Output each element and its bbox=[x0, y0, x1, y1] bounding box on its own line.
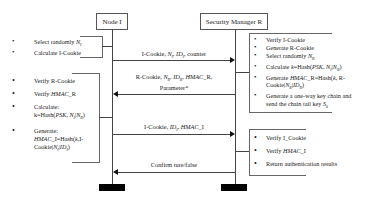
step-verify-i-cookie: • Verify I-Cookie bbox=[252, 36, 351, 44]
step-calculate-i-cookie: • Calculate I-Cookie bbox=[10, 49, 81, 57]
bullet-icon: • bbox=[12, 90, 15, 98]
bullet-icon: • bbox=[12, 127, 15, 135]
manager-r-step-connector-1 bbox=[236, 72, 249, 73]
manager-r-steps-1: • Verify I-Cookie • Generate R-Cookie • … bbox=[252, 36, 351, 111]
arrow-right-icon bbox=[230, 57, 235, 63]
bullet-icon: • bbox=[12, 103, 15, 111]
message-3-arrow-line bbox=[113, 134, 230, 135]
step-verify-hmac-i: • Verify HMAC_I bbox=[252, 147, 337, 155]
manager-r-step-connector-2 bbox=[236, 151, 249, 152]
bullet-icon: • bbox=[12, 38, 14, 46]
step-generate-hmac-i: • Generate: HMAC_I=Hash(k,I- Cookie|NI|I… bbox=[10, 127, 85, 154]
step-generate-key-chain: • Generate a one-way key chain and send … bbox=[252, 92, 351, 111]
step-calculate-k-node: • Calculate: k=Hash(PSK, NI|NR) bbox=[10, 103, 85, 122]
message-2-label: R-Cookie, NR, IDR, HMAC_R, Parameter* bbox=[113, 73, 235, 92]
bullet-icon: • bbox=[254, 92, 256, 100]
arrow-right-icon bbox=[230, 131, 235, 137]
node-i-step-connector-1 bbox=[102, 46, 112, 47]
bullet-icon: • bbox=[254, 63, 256, 71]
step-verify-r-cookie: • Verify R-Cookie bbox=[10, 77, 85, 85]
arrow-left-icon bbox=[113, 169, 118, 175]
bullet-icon: • bbox=[254, 160, 257, 168]
bullet-icon: • bbox=[254, 74, 256, 82]
node-i-step-bracket-1 bbox=[80, 36, 103, 58]
message-4-arrow-line bbox=[118, 172, 235, 173]
message-4-label: Confirm ture/false bbox=[113, 161, 235, 169]
step-calculate-k: • Calculate k=Hash(PSK, NI|NR) bbox=[252, 63, 351, 74]
step-verify-i-cookie-2: • Verify I_Cookie bbox=[252, 134, 337, 142]
message-1-arrow-line bbox=[113, 60, 230, 61]
participant-node-i-label: Node I bbox=[102, 18, 121, 26]
step-select-ni: • Select randomly NI bbox=[10, 38, 81, 49]
bullet-icon: • bbox=[254, 134, 257, 142]
node-i-steps-1: • Select randomly NI • Calculate I-Cooki… bbox=[10, 38, 81, 57]
lifeline-end-bar-node-i bbox=[99, 184, 125, 191]
participant-node-i: Node I bbox=[96, 13, 128, 30]
arrow-left-icon bbox=[113, 91, 118, 97]
lifeline-end-bar-security-manager-r bbox=[221, 184, 247, 191]
manager-r-steps-2: • Verify I_Cookie • Verify HMAC_I • Retu… bbox=[252, 134, 337, 173]
step-generate-r-cookie: • Generate R-Cookie bbox=[252, 44, 351, 52]
node-i-step-connector-2 bbox=[99, 117, 112, 118]
lifeline-security-manager-r bbox=[235, 29, 236, 184]
participant-security-manager-r-label: Security Manager R bbox=[206, 18, 262, 26]
step-generate-hmac-r: • Generate HMAC_R=Hash(k, R- Cookie|NR|I… bbox=[252, 74, 351, 93]
step-return-results: • Return authentication results bbox=[252, 160, 337, 168]
bullet-icon: • bbox=[12, 49, 14, 57]
bullet-icon: • bbox=[12, 77, 15, 85]
step-select-nr: • Select randomly NR bbox=[252, 52, 351, 63]
step-verify-hmac-r: • Verify HMAC_R bbox=[10, 90, 85, 98]
message-2-arrow-line bbox=[118, 94, 235, 95]
bullet-icon: • bbox=[254, 52, 256, 60]
node-i-steps-2: • Verify R-Cookie • Verify HMAC_R • Calc… bbox=[10, 77, 85, 159]
message-3-label: I-Cookie, IDI, HMAC_I bbox=[113, 123, 235, 134]
bullet-icon: • bbox=[254, 147, 257, 155]
participant-security-manager-r: Security Manager R bbox=[200, 13, 268, 30]
